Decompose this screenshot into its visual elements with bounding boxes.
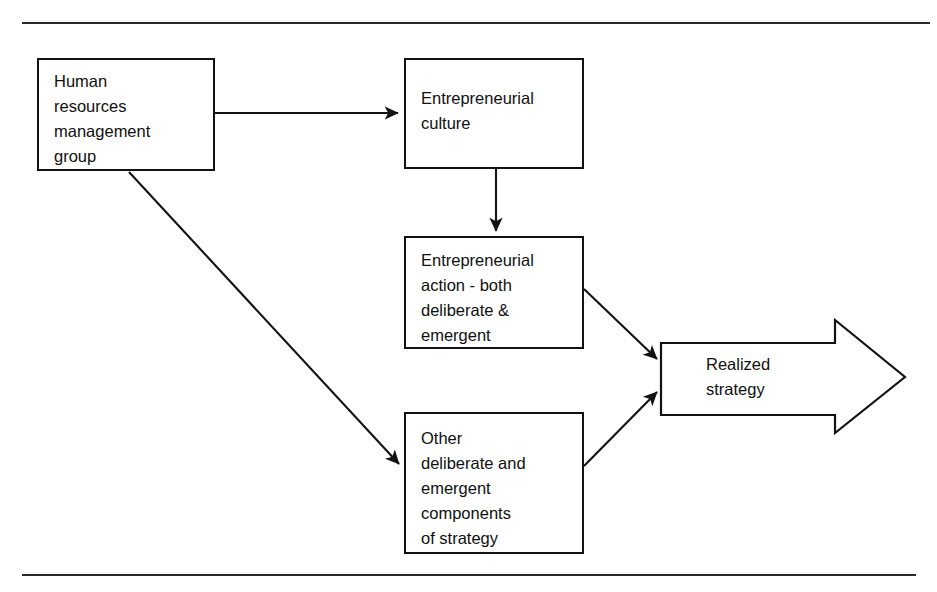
node-other-deliberate-and-emergent-components: Other deliberate and emergent components… [404, 412, 584, 554]
connector-entrepreneurial-action-to-realized-strategy [584, 289, 657, 359]
node-entrepreneurial-action: Entrepreneurial action - both deliberate… [404, 236, 584, 349]
realized-strategy-block-arrow [661, 320, 905, 433]
connector-other-components-to-realized-strategy [584, 392, 657, 466]
node-entrepreneurial-culture: Entrepreneurial culture [404, 58, 584, 169]
node-human-resources-management-group: Human resources management group [37, 58, 215, 171]
node-realized-strategy-label: Realized strategy [706, 352, 770, 402]
diagram-canvas: Human resources management group Entrepr… [0, 0, 937, 592]
connector-hr-group-to-other-components [129, 172, 399, 464]
